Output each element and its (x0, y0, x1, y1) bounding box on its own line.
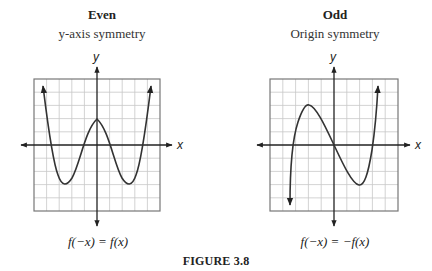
odd-x-axis-label: x (414, 138, 422, 152)
odd-graph: x y (257, 50, 422, 226)
even-y-axis-label: y (92, 50, 100, 64)
odd-equation: f(−x) = −f(x) (255, 234, 415, 250)
even-equation: f(−x) = f(x) (18, 234, 178, 250)
even-x-axis-label: x (176, 138, 184, 152)
even-graph: x y (21, 50, 184, 226)
odd-y-axis-label: y (329, 50, 337, 64)
symmetry-graphs: x y x y (0, 0, 432, 271)
figure-label: FIGURE 3.8 (146, 254, 286, 269)
